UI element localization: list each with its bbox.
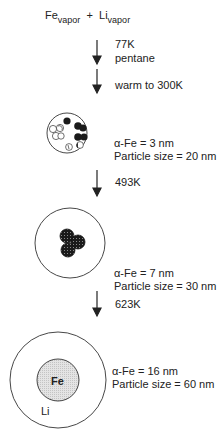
shell-label-li: Li (41, 405, 50, 417)
diagram-canvas (0, 0, 218, 440)
step-3-label: 493K (115, 176, 141, 188)
reaction-equation: Fevapor + Livapor (45, 9, 130, 22)
arrow-step-4 (93, 291, 101, 316)
reactant-li: Li (99, 9, 108, 21)
reactant-fe: Fe (45, 9, 58, 21)
arrow-step-3 (93, 170, 101, 196)
stage-2-particle-size: Particle size = 30 nm (114, 280, 216, 292)
stage-1-particle-size: Particle size = 20 nm (114, 150, 216, 162)
stage-2-alpha-fe: α-Fe = 7 nm (114, 267, 174, 279)
core-label-fe: Fe (51, 375, 64, 387)
stage-3-particle-size: Particle size = 60 nm (112, 378, 214, 390)
stage-1-alpha-fe: α-Fe = 3 nm (114, 137, 174, 149)
arrow-step-1 (93, 40, 101, 64)
step-4-label: 623K (115, 298, 141, 310)
step-1-temperature: 77K (115, 38, 135, 50)
step-2-label: warm to 300K (115, 79, 183, 91)
plus-sign: + (86, 9, 92, 21)
particle-stage-1 (47, 113, 88, 153)
reactant-fe-subscript: vapor (58, 15, 81, 25)
arrow-step-2 (93, 69, 101, 93)
particle-stage-2 (35, 208, 105, 278)
stage-3-alpha-fe: α-Fe = 16 nm (112, 365, 178, 377)
step-1-solvent: pentane (115, 52, 155, 64)
reactant-li-subscript: vapor (108, 15, 131, 25)
